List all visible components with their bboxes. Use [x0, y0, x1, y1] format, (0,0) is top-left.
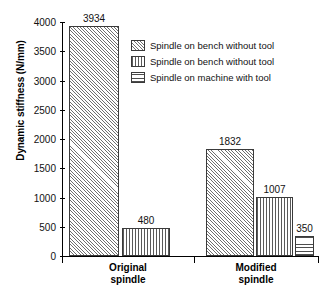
y-axis-tick-mark	[60, 51, 65, 52]
y-axis-tick-mark	[60, 198, 65, 199]
bar-value-label: 3934	[83, 13, 105, 24]
x-axis-group-label-original: Original spindle	[109, 262, 147, 286]
bar-modified-series-0	[206, 149, 254, 256]
y-axis-tick-label: 3000	[22, 75, 56, 86]
y-axis-tick-mark	[60, 139, 65, 140]
y-axis-tick-label: 500	[22, 221, 56, 232]
y-axis-tick-mark	[60, 22, 65, 23]
bar-value-label: 350	[296, 223, 313, 234]
bar-value-label: 1007	[263, 184, 285, 195]
x-axis-tick-right	[318, 257, 319, 263]
x-axis-tick-left	[62, 257, 63, 263]
legend-item-1: Spindle on bench without tool	[131, 53, 274, 69]
legend-label-1: Spindle on bench without tool	[150, 56, 274, 67]
x-axis-tick-mid	[194, 257, 195, 263]
y-axis-tick-mark	[60, 227, 65, 228]
legend-swatch-vertical-hatch-icon	[131, 56, 145, 67]
legend-swatch-diagonal-hatch-icon	[131, 40, 145, 51]
y-axis-tick-label: 1000	[22, 192, 56, 203]
y-axis-tick-label: 2500	[22, 104, 56, 115]
legend-item-2: Spindle on machine with tool	[131, 69, 274, 85]
x-axis-group-label-modified: Modified spindle	[235, 262, 276, 286]
legend-label-2: Spindle on machine with tool	[150, 72, 271, 83]
y-axis-tick-mark	[60, 110, 65, 111]
legend-swatch-horizontal-hatch-icon	[131, 72, 145, 83]
x-axis-line	[62, 256, 319, 257]
bar-chart-figure: Dynamic stiffness (N/mm) 050010001500200…	[0, 0, 326, 291]
bar-original-series-1	[122, 228, 170, 256]
legend-item-0: Spindle on bench without tool	[131, 37, 274, 53]
bar-modified-series-2	[295, 236, 314, 256]
bar-value-label: 1832	[219, 136, 241, 147]
bar-value-label: 480	[138, 215, 155, 226]
bar-original-series-0	[69, 26, 119, 256]
bar-modified-series-1	[256, 197, 293, 256]
y-axis-tick-label: 3500	[22, 46, 56, 57]
y-axis-tick-label: 1500	[22, 163, 56, 174]
y-axis-tick-label: 4000	[22, 17, 56, 28]
y-axis-tick-label: 0	[22, 251, 56, 262]
y-axis-tick-mark	[60, 168, 65, 169]
y-axis-tick-label: 2000	[22, 134, 56, 145]
chart-legend: Spindle on bench without tool Spindle on…	[131, 37, 274, 85]
x-axis-group-label-original-line2: spindle	[109, 274, 147, 286]
x-axis-group-label-original-line1: Original	[109, 262, 147, 274]
legend-label-0: Spindle on bench without tool	[150, 40, 274, 51]
x-axis-group-label-modified-line1: Modified	[235, 262, 276, 274]
x-axis-group-label-modified-line2: spindle	[235, 274, 276, 286]
y-axis-tick-mark	[60, 81, 65, 82]
